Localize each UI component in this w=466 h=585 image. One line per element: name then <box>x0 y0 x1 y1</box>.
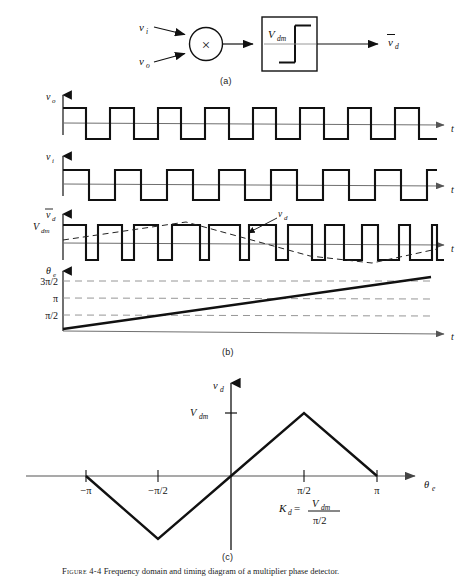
svg-text:π/2: π/2 <box>313 515 326 526</box>
svg-text:π/2: π/2 <box>45 310 58 321</box>
caption-head: Figure 4-4 <box>62 566 102 576</box>
vo-t-axis-label: t <box>451 123 454 134</box>
panel-c-label: (c) <box>222 552 233 562</box>
svg-text:e: e <box>432 484 436 493</box>
svg-text:−π/2: −π/2 <box>148 485 167 496</box>
svg-text:3π/2: 3π/2 <box>40 276 58 287</box>
svg-text:d: d <box>220 385 224 394</box>
svg-text:i: i <box>146 27 148 36</box>
svg-text:θ: θ <box>46 265 51 276</box>
input-vo-label: v o <box>139 55 150 70</box>
svg-text:K: K <box>278 502 287 514</box>
waveform-vi-label: v i <box>46 151 54 165</box>
svg-text:v: v <box>139 55 144 67</box>
vi-t-axis <box>63 184 444 186</box>
figure-4-4: v i v o × V dm v d (a) <box>0 0 466 585</box>
svg-text:=: = <box>294 502 300 514</box>
input-vi-label: v i <box>139 21 148 36</box>
svg-text:V: V <box>312 498 320 509</box>
theta-gridlines <box>63 281 432 316</box>
waveform-vo-label: v o <box>46 91 56 105</box>
waveform-vd-label: v d <box>45 209 56 223</box>
waveform-vd: v d V dm t v d <box>33 209 454 263</box>
svg-text:π: π <box>374 485 380 496</box>
svg-text:v: v <box>46 209 51 220</box>
svg-text:π: π <box>53 293 58 304</box>
svg-text:o: o <box>52 97 56 105</box>
panel-b-label: (b) <box>222 347 234 357</box>
svg-text:dm: dm <box>41 227 50 235</box>
input-vo-arrow <box>154 54 185 63</box>
svg-text:v: v <box>278 209 283 219</box>
svg-text:θ: θ <box>424 479 429 490</box>
vd-t-axis-label: t <box>451 243 454 254</box>
vd-t-axis <box>63 243 444 245</box>
theta-ramp-trace <box>63 277 431 329</box>
svg-text:d: d <box>395 42 399 51</box>
svg-text:v: v <box>46 91 51 102</box>
svg-text:o: o <box>146 61 150 70</box>
svg-text:−π: −π <box>80 485 92 496</box>
svg-text:v: v <box>388 36 393 48</box>
theta-t-axis <box>63 331 444 334</box>
input-vi-arrow <box>154 27 185 35</box>
theta-t-axis-label: t <box>451 331 454 340</box>
panel-a-label: (a) <box>220 76 232 86</box>
c-gain-formula: K d = V dm π/2 <box>278 498 340 526</box>
svg-text:v: v <box>46 151 51 162</box>
output-vd-label: v d <box>387 35 399 52</box>
multiplier-symbol: × <box>202 37 210 53</box>
svg-text:v: v <box>213 380 218 391</box>
svg-text:v: v <box>139 21 144 33</box>
waveform-vo: v o t <box>46 91 454 139</box>
c-xlabel: θ e <box>424 479 436 493</box>
svg-text:d: d <box>288 508 292 517</box>
svg-text:dm: dm <box>199 412 209 421</box>
vi-t-axis-label: t <box>451 184 454 195</box>
vd-peak-label: V dm <box>33 221 50 235</box>
caption-body: Frequency domain and timing diagram of a… <box>104 566 340 576</box>
svg-text:d: d <box>284 214 288 222</box>
vd-annotation: v d <box>248 209 288 233</box>
figure-caption: Figure 4-4 Frequency domain and timing d… <box>62 566 462 576</box>
svg-text:V: V <box>33 221 41 232</box>
panel-b-waveforms: v o t v i t v d V dm t <box>0 88 466 340</box>
svg-text:dm: dm <box>277 34 287 43</box>
svg-text:V: V <box>190 407 198 418</box>
c-ylabel: v d <box>213 380 224 394</box>
panel-a-block-diagram: v i v o × V dm v d <box>0 0 466 92</box>
svg-text:d: d <box>52 215 56 223</box>
svg-text:π/2: π/2 <box>297 485 310 496</box>
waveform-vi: v i t <box>46 151 454 200</box>
waveform-theta-e: θ e t 3π/2 π π/2 <box>40 265 454 340</box>
panel-c-transfer-characteristic: v d θ e V dm −π −π/2 π/2 π K d = V dm π/… <box>0 372 466 562</box>
svg-text:i: i <box>52 157 54 165</box>
theta-tick-labels: 3π/2 π π/2 <box>40 276 58 321</box>
c-ytick-vdm-label: V dm <box>190 407 209 421</box>
